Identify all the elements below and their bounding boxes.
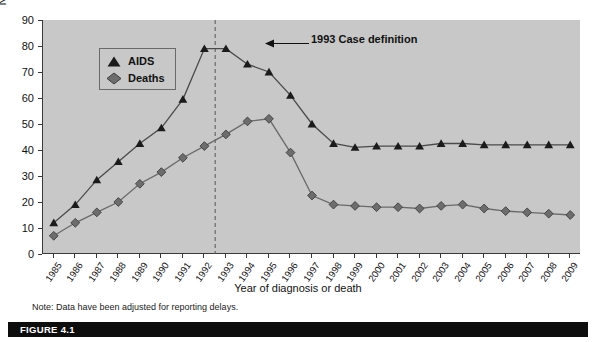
figure-caption-text: FIGURE 4.1 bbox=[20, 324, 75, 335]
y-tick-label: 10 bbox=[8, 223, 34, 233]
data-point-aids bbox=[243, 60, 252, 68]
x-tick-mark bbox=[203, 254, 204, 258]
legend-label-deaths: Deaths bbox=[128, 72, 165, 84]
y-tick-label: 50 bbox=[8, 119, 34, 129]
x-tick-mark bbox=[505, 254, 506, 258]
data-point-deaths bbox=[415, 204, 424, 213]
data-point-deaths bbox=[394, 203, 403, 212]
figure-note: Note: Data have been adjusted for report… bbox=[32, 302, 238, 312]
legend-item-aids: AIDS bbox=[106, 53, 165, 68]
case-definition-annotation: 1993 Case definition bbox=[311, 33, 417, 45]
x-tick-mark bbox=[289, 254, 290, 258]
data-point-deaths bbox=[523, 208, 532, 217]
data-point-aids bbox=[178, 95, 187, 103]
data-point-deaths bbox=[308, 191, 317, 200]
x-tick-mark bbox=[440, 254, 441, 258]
annotation-arrow-icon bbox=[265, 39, 309, 48]
diamond-marker-icon bbox=[106, 71, 122, 84]
x-tick-mark bbox=[419, 254, 420, 258]
x-tick-mark bbox=[376, 254, 377, 258]
x-tick-mark bbox=[96, 254, 97, 258]
data-point-deaths bbox=[92, 208, 101, 217]
x-tick-mark bbox=[117, 254, 118, 258]
data-point-deaths bbox=[286, 148, 295, 157]
figure-container: No. of cases and deaths (in thousands) 0… bbox=[0, 0, 596, 342]
x-tick-mark bbox=[268, 254, 269, 258]
x-tick-mark bbox=[53, 254, 54, 258]
data-point-deaths bbox=[243, 117, 252, 126]
x-tick-mark bbox=[182, 254, 183, 258]
y-tick-label: 40 bbox=[8, 145, 34, 155]
x-tick-mark bbox=[246, 254, 247, 258]
data-point-deaths bbox=[265, 114, 274, 123]
chart-legend: AIDS Deaths bbox=[99, 48, 176, 90]
legend-item-deaths: Deaths bbox=[106, 70, 165, 85]
y-tick-label: 90 bbox=[8, 15, 34, 25]
plot-area: AIDS Deaths 1993 Case definition bbox=[42, 20, 580, 254]
data-point-deaths bbox=[437, 202, 446, 211]
x-tick-mark bbox=[526, 254, 527, 258]
x-tick-mark bbox=[160, 254, 161, 258]
data-point-aids bbox=[265, 68, 274, 76]
y-tick-label: 80 bbox=[8, 41, 34, 51]
x-tick-mark bbox=[569, 254, 570, 258]
x-tick-mark bbox=[139, 254, 140, 258]
y-tick-mark bbox=[38, 254, 42, 255]
data-point-deaths bbox=[351, 202, 360, 211]
data-point-deaths bbox=[566, 211, 575, 220]
triangle-marker-icon bbox=[106, 54, 122, 67]
data-point-deaths bbox=[501, 207, 510, 216]
data-point-deaths bbox=[329, 200, 338, 209]
y-tick-label: 30 bbox=[8, 171, 34, 181]
x-tick-mark bbox=[225, 254, 226, 258]
data-point-deaths bbox=[71, 218, 80, 227]
data-point-deaths bbox=[372, 203, 381, 212]
legend-label-aids: AIDS bbox=[128, 55, 154, 67]
data-point-deaths bbox=[157, 168, 166, 177]
x-tick-mark bbox=[333, 254, 334, 258]
series-line-deaths bbox=[54, 119, 570, 236]
data-point-deaths bbox=[544, 209, 553, 218]
y-tick-label: 20 bbox=[8, 197, 34, 207]
data-point-deaths bbox=[178, 153, 187, 162]
x-axis-title: Year of diagnosis or death bbox=[0, 282, 596, 294]
x-tick-mark bbox=[462, 254, 463, 258]
figure-caption-bar: FIGURE 4.1 bbox=[8, 322, 588, 337]
data-point-aids bbox=[135, 139, 144, 147]
x-tick-mark bbox=[354, 254, 355, 258]
data-point-deaths bbox=[458, 200, 467, 209]
data-point-deaths bbox=[222, 130, 231, 139]
y-tick-label: 60 bbox=[8, 93, 34, 103]
data-point-deaths bbox=[480, 204, 489, 213]
x-tick-mark bbox=[74, 254, 75, 258]
y-tick-label: 0 bbox=[8, 249, 34, 259]
data-point-deaths bbox=[200, 142, 209, 151]
x-tick-mark bbox=[311, 254, 312, 258]
x-tick-mark bbox=[483, 254, 484, 258]
x-tick-mark bbox=[397, 254, 398, 258]
x-tick-mark bbox=[548, 254, 549, 258]
data-point-deaths bbox=[49, 231, 58, 240]
y-axis-title: No. of cases and deaths (in thousands) bbox=[0, 0, 8, 24]
y-tick-label: 70 bbox=[8, 67, 34, 77]
